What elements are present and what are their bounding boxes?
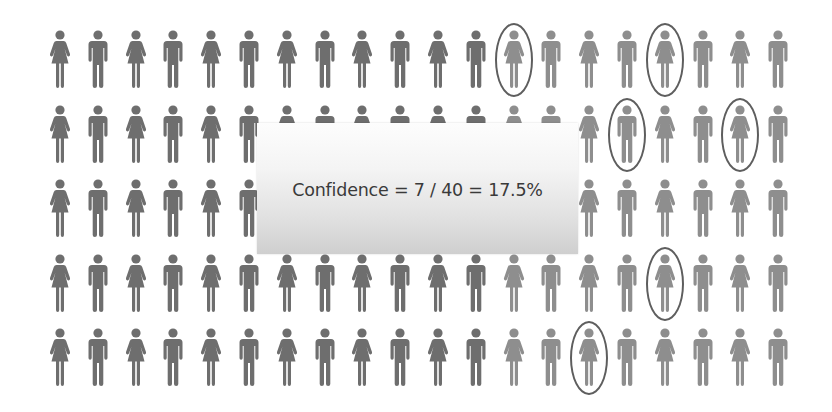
highlight-ring — [721, 98, 759, 172]
female-person-icon — [502, 254, 526, 314]
male-person-icon — [388, 30, 412, 90]
male-person-icon — [615, 179, 639, 239]
female-person-icon — [350, 30, 374, 90]
female-person-icon — [426, 254, 450, 314]
female-person-icon — [728, 30, 752, 90]
female-person-icon — [275, 328, 299, 388]
female-person-icon — [728, 328, 752, 388]
female-person-icon — [275, 254, 299, 314]
female-person-icon — [48, 328, 72, 388]
male-person-icon — [539, 30, 563, 90]
female-person-icon — [124, 254, 148, 314]
female-person-icon — [199, 105, 223, 165]
male-person-icon — [691, 328, 715, 388]
male-person-icon — [86, 179, 110, 239]
male-person-icon — [691, 254, 715, 314]
male-person-icon — [161, 179, 185, 239]
male-person-icon — [464, 328, 488, 388]
male-person-icon — [313, 254, 337, 314]
female-person-icon — [577, 105, 601, 165]
female-person-icon — [350, 254, 374, 314]
male-person-icon — [161, 30, 185, 90]
female-person-icon — [728, 254, 752, 314]
male-person-icon — [313, 328, 337, 388]
female-person-icon — [124, 328, 148, 388]
highlight-ring — [495, 23, 533, 97]
male-person-icon — [766, 105, 790, 165]
male-person-icon — [615, 254, 639, 314]
male-person-icon — [766, 30, 790, 90]
male-person-icon — [86, 328, 110, 388]
male-person-icon — [237, 328, 261, 388]
male-person-icon — [615, 30, 639, 90]
male-person-icon — [237, 30, 261, 90]
female-person-icon — [577, 254, 601, 314]
highlight-ring — [570, 321, 608, 395]
female-person-icon — [199, 30, 223, 90]
male-person-icon — [161, 254, 185, 314]
male-person-icon — [615, 328, 639, 388]
confidence-formula: Confidence = 7 / 40 = 17.5% — [292, 180, 543, 200]
female-person-icon — [199, 328, 223, 388]
male-person-icon — [161, 105, 185, 165]
male-person-icon — [691, 105, 715, 165]
female-person-icon — [124, 105, 148, 165]
male-person-icon — [86, 105, 110, 165]
male-person-icon — [464, 254, 488, 314]
female-person-icon — [199, 254, 223, 314]
male-person-icon — [237, 254, 261, 314]
confidence-callout: Confidence = 7 / 40 = 17.5% — [257, 123, 578, 254]
male-person-icon — [388, 328, 412, 388]
male-person-icon — [388, 254, 412, 314]
female-person-icon — [653, 105, 677, 165]
female-person-icon — [350, 328, 374, 388]
female-person-icon — [653, 328, 677, 388]
highlight-ring — [646, 247, 684, 321]
male-person-icon — [691, 30, 715, 90]
male-person-icon — [766, 328, 790, 388]
male-person-icon — [766, 179, 790, 239]
male-person-icon — [691, 179, 715, 239]
male-person-icon — [86, 254, 110, 314]
female-person-icon — [653, 179, 677, 239]
female-person-icon — [124, 30, 148, 90]
male-person-icon — [539, 254, 563, 314]
male-person-icon — [313, 30, 337, 90]
female-person-icon — [199, 179, 223, 239]
female-person-icon — [48, 254, 72, 314]
highlight-ring — [646, 23, 684, 97]
female-person-icon — [426, 30, 450, 90]
female-person-icon — [426, 328, 450, 388]
female-person-icon — [502, 328, 526, 388]
male-person-icon — [539, 328, 563, 388]
highlight-ring — [608, 98, 646, 172]
male-person-icon — [161, 328, 185, 388]
female-person-icon — [577, 179, 601, 239]
female-person-icon — [124, 179, 148, 239]
female-person-icon — [48, 105, 72, 165]
female-person-icon — [728, 179, 752, 239]
female-person-icon — [275, 30, 299, 90]
female-person-icon — [577, 30, 601, 90]
male-person-icon — [464, 30, 488, 90]
female-person-icon — [48, 179, 72, 239]
male-person-icon — [766, 254, 790, 314]
male-person-icon — [86, 30, 110, 90]
female-person-icon — [48, 30, 72, 90]
